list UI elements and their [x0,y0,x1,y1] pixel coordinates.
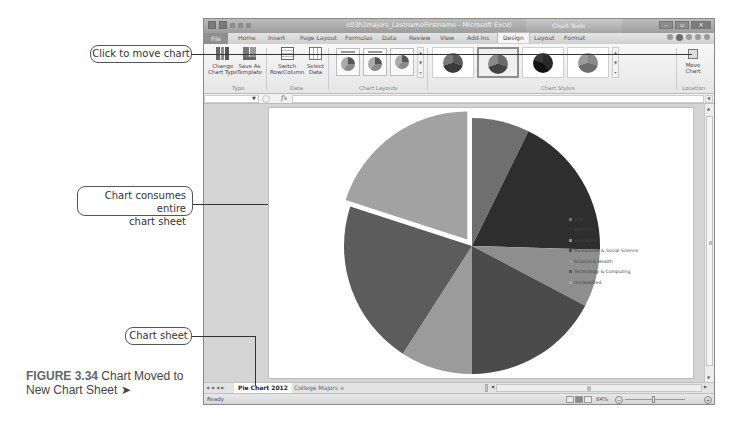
change-chart-type-button[interactable]: Change Chart Type [208,47,238,75]
customize-qat-icon[interactable] [246,23,251,28]
layouts-gallery-scroll[interactable]: ▲▼▾ [417,47,424,78]
normal-view-icon[interactable] [566,396,574,403]
save-as-template-label-2: Template [237,69,262,75]
tab-insert[interactable]: Insert [268,34,285,41]
callout-chart-sheet: Chart sheet [125,327,192,345]
minimize-ribbon-icon[interactable] [667,34,673,40]
legend-swatch [569,270,572,273]
zoom-slider-thumb[interactable] [652,396,655,403]
callout-text: chart sheet [84,215,186,228]
insert-function-button[interactable]: fx [281,94,287,102]
chart-style-2[interactable] [477,47,519,78]
callout-chart-consumes: Chart consumes entire chart sheet [77,186,193,216]
redo-icon[interactable] [238,23,243,28]
tab-data[interactable]: Data [382,34,396,41]
legend-swatch [569,260,572,263]
help-icon[interactable] [676,34,683,41]
chart-legend[interactable]: Arts Business Education Humanities & Soc… [569,214,638,288]
ribbon: Change Chart Type Save As Template Type … [204,44,714,94]
close-button[interactable]: ✕ [691,21,711,29]
tab-review[interactable]: Review [409,34,430,41]
scroll-right-icon[interactable]: ▶ [704,384,707,389]
undo-icon[interactable] [230,23,235,28]
tab-split-handle[interactable] [485,384,488,392]
zoom-level[interactable]: 84% [596,396,608,402]
restore-button[interactable]: ▫ [675,21,689,29]
chart-area[interactable]: Arts Business Education Humanities & Soc… [268,107,694,379]
status-bar: Ready 84% − + [204,393,714,405]
leader-line-chart-sheet-vertical [255,336,256,386]
minimize-button[interactable]: – [659,21,673,29]
tab-view[interactable]: View [440,34,454,41]
expand-formula-bar-button[interactable]: ▼ [705,95,713,103]
workbook-minimize-icon[interactable] [686,34,692,40]
formula-input[interactable] [292,95,704,103]
chart-style-3[interactable] [522,47,564,78]
legend-item: Technology & Computing [569,267,638,278]
horizontal-scrollbar[interactable] [496,384,702,392]
leader-line-chart-sheet [192,336,255,337]
vertical-scrollbar[interactable]: ▲ ▼ [704,104,714,382]
save-icon[interactable] [219,21,227,29]
name-box-dropdown-icon[interactable]: ▼ [252,95,256,101]
sheet-tab-college-majors[interactable]: College Majors [290,383,342,393]
figure-caption-text: Chart Moved to [98,369,183,383]
chart-style-1[interactable] [432,47,474,78]
scroll-thumb[interactable] [706,116,713,366]
tab-page-layout[interactable]: Page Layout [300,34,337,41]
sheet-nav-arrows-icon[interactable]: ◀◀◀▶ [206,385,226,390]
legend-item: Education [569,235,638,246]
window-controls: – ▫ ✕ [659,21,711,29]
zoom-out-button[interactable]: − [615,396,623,404]
chart-layout-1[interactable] [336,48,360,76]
workbook-restore-icon[interactable] [695,34,701,40]
insert-worksheet-icon[interactable]: ⊕ [336,383,348,393]
scroll-up-icon[interactable]: ▲ [707,106,710,111]
switch-row-column-button[interactable]: Switch Row/Column [270,47,304,75]
status-text: Ready [207,396,224,402]
tab-layout[interactable]: Layout [534,34,554,41]
tab-design[interactable]: Design [497,32,530,43]
tab-home[interactable]: Home [238,34,256,41]
page-break-view-icon[interactable] [584,396,592,403]
title-bar: e03h2majors_LastnameFirstname - Microsof… [204,19,714,33]
chart-layout-2[interactable] [363,48,387,76]
scroll-left-icon[interactable]: ◀ [491,384,494,389]
excel-window: e03h2majors_LastnameFirstname - Microsof… [203,18,715,405]
tab-file[interactable]: File [204,33,228,44]
chart-style-4[interactable] [567,47,609,78]
pie-chart[interactable] [337,110,607,378]
scroll-down-icon[interactable]: ▼ [707,375,710,380]
ribbon-tab-bar: File Home Insert Page Layout Formulas Da… [204,33,714,44]
change-chart-type-label-2: Chart Type [208,69,238,75]
legend-swatch [569,228,572,231]
quick-access-toolbar [208,21,251,29]
tab-formulas[interactable]: Formulas [345,34,372,41]
tab-format[interactable]: Format [564,34,585,41]
zoom-in-button[interactable]: + [704,396,712,404]
zoom-slider-track[interactable] [625,399,685,400]
legend-swatch [569,239,572,242]
select-data-button[interactable]: Select Data [307,47,324,75]
legend-label: Science & Health [574,259,613,264]
legend-item: Unclassified [569,277,638,288]
sheet-tab-pie-chart-2012[interactable]: Pie Chart 2012 [234,383,292,393]
tab-add-ins[interactable]: Add-Ins [467,34,489,41]
leader-line-chart-consumes [193,204,268,205]
chart-layout-3[interactable] [390,48,414,76]
window-title: e03h2majors_LastnameFirstname - Microsof… [346,21,511,29]
styles-gallery-scroll[interactable]: ▲▼▾ [612,47,619,78]
legend-item: Science & Health [569,256,638,267]
legend-label: Humanities & Social Science [574,248,638,253]
formula-bar: ▼ fx ▼ [204,94,714,104]
page-layout-view-icon[interactable] [575,396,583,403]
move-chart-button[interactable]: Move Chart [680,47,706,74]
type-group-label: Type [232,85,245,91]
callout-move-chart: Click to move chart [90,45,192,63]
legend-label: Arts [574,217,583,222]
view-buttons [566,396,592,403]
save-as-template-button[interactable]: Save As Template [237,47,262,75]
workbook-close-icon[interactable] [704,34,710,40]
name-box[interactable] [204,95,259,103]
legend-label: Technology & Computing [574,269,630,274]
